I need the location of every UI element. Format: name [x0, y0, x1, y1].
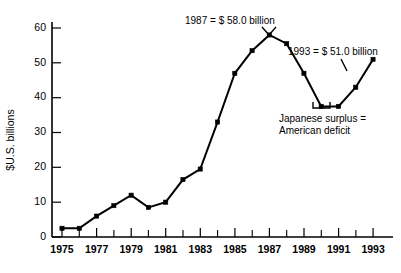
- data-point-1975: [60, 226, 64, 230]
- y-axis-title: $U.S. billions: [4, 109, 16, 170]
- y-axis-title-label: $U.S. billions: [4, 109, 16, 170]
- y-tick-label-40: 40: [34, 90, 46, 102]
- x-tick-label-1991: 1991: [327, 243, 351, 255]
- data-point-1992: [354, 85, 358, 89]
- x-tick-label-1987: 1987: [258, 243, 282, 255]
- data-point-1978: [112, 204, 116, 208]
- data-point-1977: [94, 214, 98, 218]
- x-tick-label-1977: 1977: [85, 243, 109, 255]
- data-point-1993: [371, 57, 375, 61]
- data-point-1979: [129, 193, 133, 197]
- y-tick-label-10: 10: [34, 195, 46, 207]
- x-tick-label-1975: 1975: [50, 243, 74, 255]
- data-point-1989: [302, 71, 306, 75]
- chart-container: $U.S. billions 0 10 20 30 40 50 60: [0, 0, 401, 273]
- data-point-1976: [77, 226, 81, 230]
- y-tick-label-60: 60: [34, 21, 46, 33]
- data-point-1980: [146, 205, 150, 209]
- x-tick-label-1989: 1989: [292, 243, 316, 255]
- annotation-end-1993-label: 1993 = $ 51.0 billion: [288, 46, 378, 57]
- annotation-trough-note-line2: American deficit: [279, 125, 350, 136]
- annotation-trough-note-line1: Japanese surplus =: [279, 113, 366, 124]
- x-tick-label-1983: 1983: [189, 243, 213, 255]
- y-tick-label-50: 50: [34, 56, 46, 68]
- y-tick-label-30: 30: [34, 125, 46, 137]
- data-point-1985: [233, 71, 237, 75]
- x-tick-label-1985: 1985: [223, 243, 247, 255]
- y-tick-label-0: 0: [40, 230, 46, 242]
- data-point-1983: [198, 167, 202, 171]
- data-point-1986: [250, 49, 254, 53]
- data-point-1984: [215, 120, 219, 124]
- line-chart: $U.S. billions 0 10 20 30 40 50 60: [0, 0, 401, 273]
- data-point-1991: [336, 104, 340, 108]
- data-point-1981: [164, 200, 168, 204]
- annotation-peak-1987-label: 1987 = $ 58.0 billion: [185, 15, 275, 26]
- x-tick-label-1979: 1979: [120, 243, 144, 255]
- data-point-1982: [181, 177, 185, 181]
- y-tick-label-20: 20: [34, 160, 46, 172]
- x-tick-label-1993: 1993: [361, 243, 385, 255]
- x-tick-label-1981: 1981: [154, 243, 178, 255]
